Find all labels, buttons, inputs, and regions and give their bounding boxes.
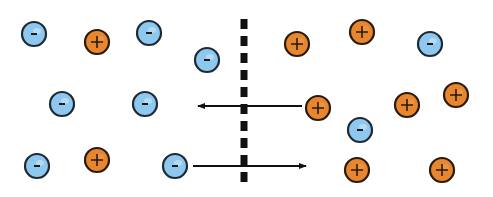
flow-arrows xyxy=(193,106,306,166)
negative-ion xyxy=(195,48,219,72)
positive-ion xyxy=(285,32,309,56)
positive-ion xyxy=(85,30,109,54)
positive-ion xyxy=(430,158,454,182)
negative-ion xyxy=(418,32,442,56)
negative-ion xyxy=(25,154,49,178)
positive-ion xyxy=(85,148,109,172)
negative-ion xyxy=(137,21,161,45)
diagram-canvas xyxy=(0,0,493,197)
negative-ion xyxy=(50,92,74,116)
positive-ion xyxy=(345,158,369,182)
positive-ion xyxy=(444,83,468,107)
negative-ion xyxy=(22,22,46,46)
positive-ion xyxy=(306,96,330,120)
negative-ion xyxy=(163,154,187,178)
positive-ion xyxy=(395,93,419,117)
positive-ion xyxy=(350,20,374,44)
membrane-ion-diagram xyxy=(0,0,493,197)
negative-ion xyxy=(133,92,157,116)
negative-ion xyxy=(348,118,372,142)
